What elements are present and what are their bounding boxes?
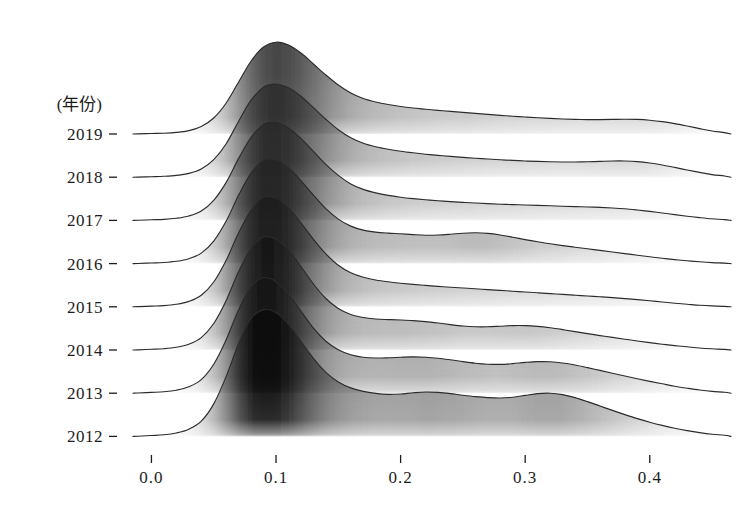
- y-axis-tick-label-2016: 2016: [67, 255, 103, 274]
- y-axis-tick-label-2014: 2014: [67, 341, 103, 360]
- y-axis-tick-label-2018: 2018: [67, 168, 103, 187]
- ridge-area-fill: [133, 296, 731, 438]
- y-axis-tick-label-2017: 2017: [67, 211, 103, 230]
- x-axis-tick-label: 0.0: [139, 468, 163, 487]
- x-axis-tick-labels: 0.00.10.20.30.4: [139, 468, 662, 487]
- y-axis-title: (年份): [57, 95, 102, 114]
- ridgeline-figure: 0.00.10.20.30.4 201920182017201620152014…: [0, 0, 756, 525]
- y-axis-tick-labels: 20192018201720162015201420132012: [67, 125, 117, 446]
- y-axis-tick-label-2019: 2019: [67, 125, 103, 144]
- y-axis-tick-label-2015: 2015: [67, 298, 103, 317]
- x-axis-tick-label: 0.4: [638, 468, 662, 487]
- x-axis-tick-label: 0.1: [264, 468, 288, 487]
- ridge-row-2012: [133, 296, 731, 438]
- x-axis-tick-label: 0.3: [513, 468, 537, 487]
- x-axis-tick-marks: [151, 455, 649, 463]
- ridge-series-group: [133, 0, 731, 438]
- y-axis-tick-label-2012: 2012: [67, 427, 103, 446]
- y-axis-tick-label-2013: 2013: [67, 384, 103, 403]
- ridgeline-chart-canvas: 0.00.10.20.30.4 201920182017201620152014…: [0, 0, 756, 525]
- x-axis-tick-label: 0.2: [388, 468, 412, 487]
